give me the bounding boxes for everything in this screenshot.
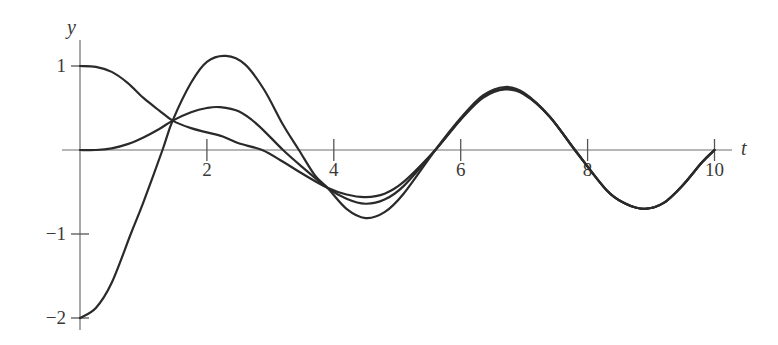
y-tick-label: −2 bbox=[46, 307, 66, 328]
y-axis-label: y bbox=[65, 16, 76, 39]
chart: t y 246810 1−1−2 bbox=[0, 0, 778, 345]
y-ticks: 1−1−2 bbox=[46, 55, 89, 328]
x-tick-label: 6 bbox=[456, 159, 466, 180]
series-curve-2 bbox=[80, 89, 715, 209]
x-tick-label: 10 bbox=[705, 159, 724, 180]
series-curve-1 bbox=[80, 66, 715, 209]
plot-area: t y 246810 1−1−2 bbox=[0, 0, 778, 345]
y-tick-label: 1 bbox=[57, 55, 67, 76]
x-tick-label: 2 bbox=[202, 159, 212, 180]
curves bbox=[80, 56, 715, 318]
x-tick-label: 4 bbox=[329, 159, 339, 180]
y-tick-label: −1 bbox=[46, 223, 66, 244]
x-axis-label: t bbox=[741, 137, 747, 159]
